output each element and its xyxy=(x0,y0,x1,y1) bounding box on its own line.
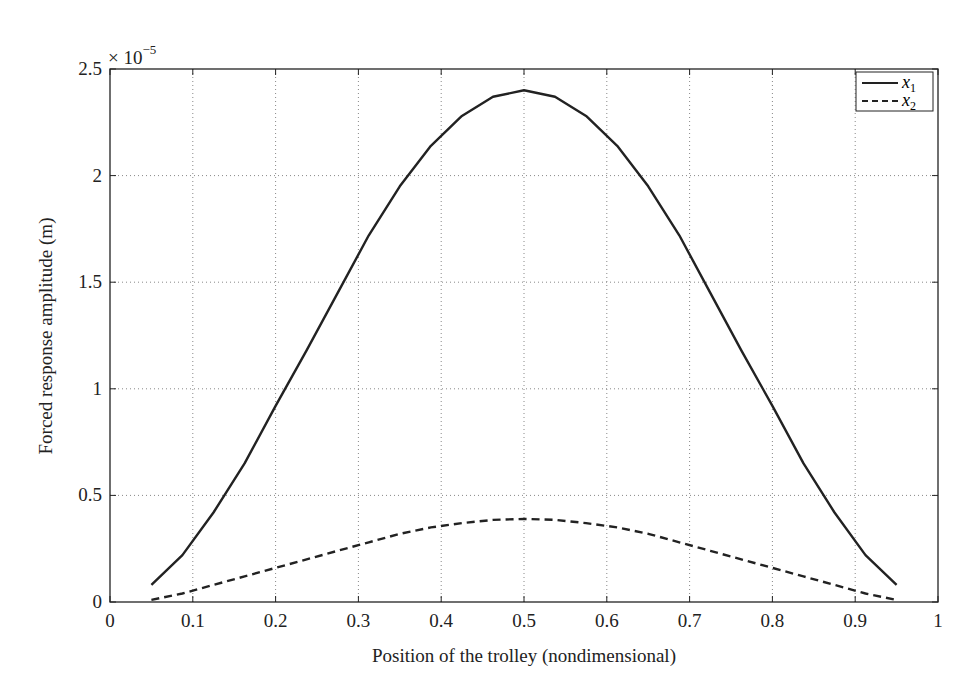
x-tick-label: 0.3 xyxy=(347,610,371,631)
x-tick-label: 0.2 xyxy=(264,610,288,631)
grid-lines xyxy=(110,69,938,602)
y-multiplier: × 10−5 xyxy=(108,42,156,68)
x-tick-label: 0.6 xyxy=(595,610,619,631)
x-tick-label: 0.9 xyxy=(843,610,867,631)
x-tick-label: 0.8 xyxy=(761,610,785,631)
legend: x1 x2 xyxy=(856,72,933,113)
y-tick-label: 1.5 xyxy=(78,271,102,292)
y-tick-label: 1 xyxy=(93,378,103,399)
x-axis-label: Position of the trolley (nondimensional) xyxy=(372,645,676,667)
y-tick-label: 0.5 xyxy=(78,484,102,505)
y-tick-label: 0 xyxy=(93,591,103,612)
plot-frame xyxy=(110,69,938,602)
x-tick-label: 1 xyxy=(933,610,943,631)
series-x2-line xyxy=(151,519,896,600)
y-tick-label: 2 xyxy=(93,165,103,186)
x-tick-label: 0 xyxy=(105,610,115,631)
x-tick-label: 0.4 xyxy=(429,610,453,631)
x-tick-label: 0.7 xyxy=(678,610,702,631)
y-axis-label: Forced response amplitude (m) xyxy=(35,218,57,455)
axis-ticks: 00.10.20.30.40.50.60.70.80.9100.511.522.… xyxy=(78,58,943,631)
line-chart: 00.10.20.30.40.50.60.70.80.9100.511.522.… xyxy=(0,0,972,693)
x-tick-label: 0.1 xyxy=(181,610,205,631)
y-tick-label: 2.5 xyxy=(78,58,102,79)
x-tick-label: 0.5 xyxy=(512,610,536,631)
